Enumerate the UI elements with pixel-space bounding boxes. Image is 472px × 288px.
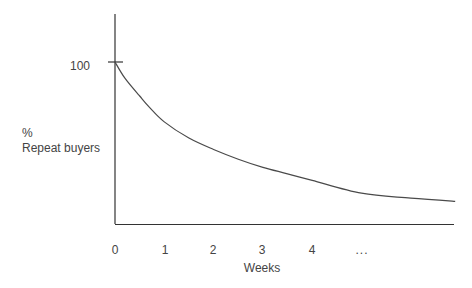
x-tick-label-4: 4: [309, 244, 316, 257]
x-tick-label-1: 1: [162, 244, 169, 257]
y-axis-label-percent: %: [22, 127, 33, 140]
decay-curve: [115, 62, 455, 201]
x-tick-label-0: 0: [112, 244, 119, 257]
x-tick-label-3: 3: [259, 244, 266, 257]
y-tick-label-100: 100: [70, 60, 90, 73]
y-axis-label-text: Repeat buyers: [22, 142, 100, 155]
x-tick-label-2: 2: [210, 244, 217, 257]
x-axis-label: Weeks: [244, 262, 280, 275]
repeat-buyers-chart: 100 % Repeat buyers 0 1 2 3 4 ... Weeks: [0, 0, 472, 288]
x-tick-label-ellipsis: ...: [355, 244, 368, 257]
